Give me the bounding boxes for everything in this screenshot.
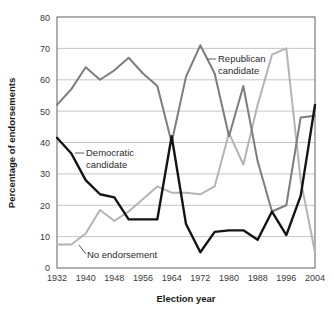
x-tick-1932: 1932 [47, 273, 67, 283]
x-tick-1956: 1956 [133, 273, 153, 283]
x-tick-1980: 1980 [219, 273, 239, 283]
series-line-democratic [57, 105, 315, 252]
y-tick-0: 0 [45, 263, 50, 273]
y-tick-30: 30 [40, 169, 50, 179]
y-tick-40: 40 [40, 138, 50, 148]
annotation-republican: Republican candidate [207, 53, 266, 76]
x-tick-1996: 1996 [276, 273, 296, 283]
x-tick-1964: 1964 [162, 273, 182, 283]
y-tick-70: 70 [40, 44, 50, 54]
x-tick-1972: 1972 [190, 273, 210, 283]
x-tick-1940: 1940 [76, 273, 96, 283]
annotation-no-endorsement: No endorsement [79, 245, 158, 260]
y-tick-50: 50 [40, 107, 50, 117]
y-axis-tick-labels: 80 70 60 50 40 30 20 10 0 [40, 13, 50, 274]
line-chart: 80 70 60 50 40 30 20 10 0 1932 1940 1948… [0, 0, 334, 325]
republican-label-line1: Republican [218, 53, 266, 64]
y-tick-10: 10 [40, 232, 50, 242]
democratic-label-line1: Democratic [86, 147, 134, 158]
republican-label-line2: candidate [218, 65, 259, 76]
x-axis-title: Election year [156, 293, 215, 304]
y-axis-title: Percentage of endorsements [6, 78, 17, 208]
x-tick-1948: 1948 [104, 273, 124, 283]
series-line-republican [57, 45, 315, 211]
no-endorsement-leader-line [79, 245, 86, 254]
chart-container: 80 70 60 50 40 30 20 10 0 1932 1940 1948… [0, 0, 334, 325]
no-endorsement-label: No endorsement [87, 249, 158, 260]
y-tick-20: 20 [40, 201, 50, 211]
y-tick-80: 80 [40, 13, 50, 23]
annotation-democratic: Democratic candidate [75, 147, 134, 170]
x-tick-2004: 2004 [305, 273, 325, 283]
y-tick-60: 60 [40, 75, 50, 85]
democratic-label-line2: candidate [86, 159, 127, 170]
x-axis-tick-labels: 1932 1940 1948 1956 1964 1972 1980 1988 … [47, 273, 325, 283]
x-tick-1988: 1988 [248, 273, 268, 283]
